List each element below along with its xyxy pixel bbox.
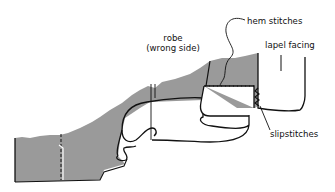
hem-stitches-label: hem stitches [247, 16, 302, 26]
slipstitches-label: slipstitches [270, 129, 318, 139]
robe-fabric-shape [15, 53, 259, 182]
robe-label-line2: (wrong side) [145, 43, 201, 53]
robe-label: robe (wrong side) [145, 33, 201, 53]
robe-illustration [0, 0, 335, 192]
lapel-facing-label: lapel facing [265, 40, 315, 50]
robe-label-line1: robe [145, 33, 201, 43]
sewing-diagram: robe (wrong side) hem stitches lapel fac… [0, 0, 335, 192]
